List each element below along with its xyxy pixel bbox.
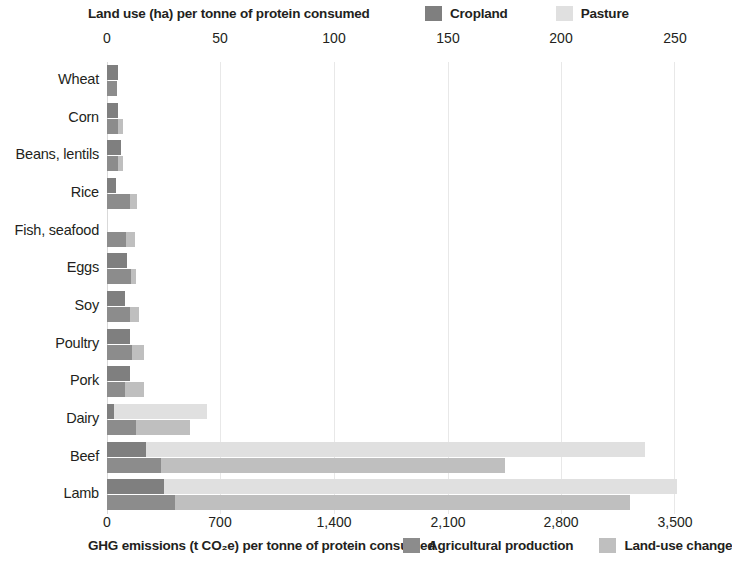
legend-item-land-use-change: Land-use change xyxy=(599,538,732,553)
segment-agricultural-production xyxy=(107,269,131,284)
segment-cropland xyxy=(107,65,118,80)
bottom-tick-0: 0 xyxy=(103,514,111,530)
top-header: Land use (ha) per tonne of protein consu… xyxy=(0,6,693,28)
legend-item-pasture: Pasture xyxy=(556,6,629,21)
bar-group xyxy=(107,100,675,138)
segment-agricultural-production xyxy=(107,458,161,473)
segment-land-use-change xyxy=(132,345,143,360)
segment-pasture xyxy=(164,479,677,494)
top-axis-title: Land use (ha) per tonne of protein consu… xyxy=(88,6,370,21)
legend-swatch-pasture xyxy=(556,6,573,21)
segment-land-use-change xyxy=(126,232,134,247)
segment-land-use-change xyxy=(175,495,629,510)
category-label: Wheat xyxy=(58,71,99,87)
top-tick-2: 100 xyxy=(322,30,345,46)
bar-group xyxy=(107,476,675,514)
segment-land-use-change xyxy=(118,156,124,171)
segment-cropland xyxy=(107,103,118,118)
top-tick-row: 0 50 100 150 200 250 xyxy=(0,30,693,50)
segment-pasture xyxy=(114,404,207,419)
plot-area xyxy=(107,62,675,514)
segment-pasture xyxy=(146,442,646,457)
bar-group xyxy=(107,175,675,213)
top-tick-3: 150 xyxy=(436,30,459,46)
segment-cropland xyxy=(107,366,130,381)
category-label: Soy xyxy=(75,297,99,313)
bottom-tick-4: 2,800 xyxy=(543,514,578,530)
legend-swatch-land-use-change xyxy=(599,538,616,553)
category-label: Rice xyxy=(71,184,99,200)
segment-land-use-change xyxy=(125,382,144,397)
legend-swatch-cropland xyxy=(425,6,442,21)
category-label: Dairy xyxy=(66,410,99,426)
segment-agricultural-production xyxy=(107,156,118,171)
category-label: Beef xyxy=(70,448,99,464)
segment-land-use-change xyxy=(131,269,136,284)
segment-cropland xyxy=(107,404,114,419)
segment-agricultural-production xyxy=(107,345,132,360)
segment-cropland xyxy=(107,329,130,344)
segment-agricultural-production xyxy=(107,382,125,397)
legend-label-pasture: Pasture xyxy=(581,6,629,21)
top-tick-0: 0 xyxy=(103,30,111,46)
bottom-tick-1: 700 xyxy=(208,514,231,530)
bar-group xyxy=(107,288,675,326)
bar-group xyxy=(107,62,675,100)
bottom-tick-2: 1,400 xyxy=(316,514,351,530)
bottom-tick-5: 3,500 xyxy=(657,514,692,530)
segment-cropland xyxy=(107,442,146,457)
top-tick-5: 250 xyxy=(663,30,686,46)
segment-agricultural-production xyxy=(107,495,175,510)
category-label: Poultry xyxy=(55,335,99,351)
top-tick-1: 50 xyxy=(212,30,228,46)
segment-agricultural-production xyxy=(107,119,118,134)
segment-land-use-change xyxy=(130,307,139,322)
bar-group xyxy=(107,401,675,439)
category-label: Corn xyxy=(68,109,99,125)
bar-group xyxy=(107,326,675,364)
legend-swatch-agricultural-production xyxy=(403,538,420,553)
legend-label-cropland: Cropland xyxy=(450,6,508,21)
legend-item-agricultural-production: Agricultural production xyxy=(403,538,573,553)
category-label: Pork xyxy=(70,372,99,388)
segment-land-use-change xyxy=(136,420,190,435)
bottom-header: GHG emissions (t CO₂e) per tonne of prot… xyxy=(0,538,693,560)
segment-cropland xyxy=(107,178,116,193)
legend-label-land-use-change: Land-use change xyxy=(624,538,732,553)
bar-group xyxy=(107,137,675,175)
bar-group xyxy=(107,439,675,477)
legend-top: Cropland Pasture xyxy=(425,6,629,21)
category-labels: WheatCornBeans, lentilsRiceFish, seafood… xyxy=(0,62,99,514)
segment-agricultural-production xyxy=(107,420,136,435)
legend-label-agricultural-production: Agricultural production xyxy=(428,538,573,553)
top-tick-4: 200 xyxy=(549,30,572,46)
bottom-axis-title: GHG emissions (t CO₂e) per tonne of prot… xyxy=(88,538,435,553)
bottom-tick-3: 2,100 xyxy=(430,514,465,530)
bar-group xyxy=(107,363,675,401)
segment-agricultural-production xyxy=(107,194,130,209)
bottom-tick-row: 0 700 1,400 2,100 2,800 3,500 xyxy=(0,514,693,534)
legend-item-cropland: Cropland xyxy=(425,6,508,21)
segment-cropland xyxy=(107,291,125,306)
legend-bottom: Agricultural production Land-use change xyxy=(403,538,732,553)
segment-agricultural-production xyxy=(107,307,130,322)
segment-land-use-change xyxy=(130,194,137,209)
segment-cropland xyxy=(107,479,164,494)
segment-land-use-change xyxy=(118,119,123,134)
category-label: Eggs xyxy=(67,259,99,275)
segment-agricultural-production xyxy=(107,81,117,96)
segment-land-use-change xyxy=(161,458,505,473)
category-label: Lamb xyxy=(64,485,99,501)
bar-group xyxy=(107,213,675,251)
segment-agricultural-production xyxy=(107,232,126,247)
segment-cropland xyxy=(107,253,127,268)
category-label: Beans, lentils xyxy=(16,146,99,162)
bar-group xyxy=(107,250,675,288)
segment-cropland xyxy=(107,140,121,155)
category-label: Fish, seafood xyxy=(15,222,99,238)
